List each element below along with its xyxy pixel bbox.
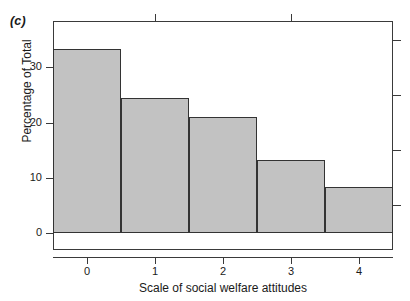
y-axis-tick-label: 0 <box>36 226 42 238</box>
bar <box>53 49 121 233</box>
x-axis-tick-label: 3 <box>288 265 294 277</box>
y-axis-tick: 20 <box>46 123 53 124</box>
y-axis-title: Percentage of Total <box>20 16 34 166</box>
x-axis-tick-label: 0 <box>84 265 90 277</box>
figure-canvas: (c) 0102030 Scale of social welfare atti… <box>0 0 410 301</box>
y-axis-tick: 0 <box>46 233 53 234</box>
bar <box>325 187 393 233</box>
x-axis-tick <box>155 257 156 264</box>
y-axis-tick: 10 <box>46 178 53 179</box>
x-axis-tick <box>87 257 88 264</box>
right-edge-tick <box>393 95 401 96</box>
x-axis-tick <box>223 257 224 264</box>
x-axis-tick-label: 2 <box>220 265 226 277</box>
y-axis-tick-label: 10 <box>30 171 42 183</box>
top-edge-tick <box>155 14 156 21</box>
bar <box>189 117 257 233</box>
right-edge-tick <box>393 205 401 206</box>
x-axis-tick-label: 4 <box>356 265 362 277</box>
plot-area: 0102030 <box>53 21 393 250</box>
right-edge-tick <box>393 150 401 151</box>
top-edge-tick <box>291 14 292 21</box>
y-axis-tick: 30 <box>46 67 53 68</box>
x-axis-tick <box>359 257 360 264</box>
bar <box>121 98 189 233</box>
x-axis-tick-label: 1 <box>152 265 158 277</box>
right-edge-tick <box>393 40 401 41</box>
bar <box>257 160 325 233</box>
x-axis-title: Scale of social welfare attitudes <box>53 281 393 295</box>
x-axis-tick <box>291 257 292 264</box>
